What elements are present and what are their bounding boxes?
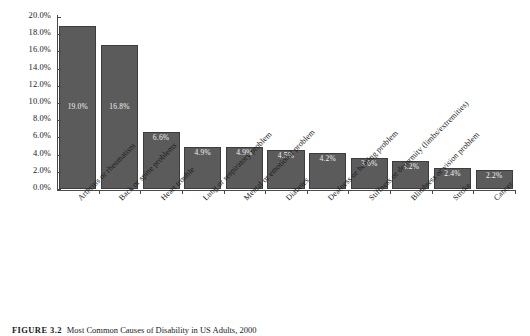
bar-value-label: 4.9% [185, 148, 220, 157]
y-axis-line [57, 15, 58, 191]
x-tick-mark [224, 190, 225, 194]
y-tick-label: 4.0% [33, 148, 51, 158]
figure-caption: FIGURE 3.2Most Common Causes of Disabili… [12, 325, 517, 336]
x-tick-mark [348, 190, 349, 194]
figure-caption-text: Most Common Causes of Disability in US A… [67, 325, 257, 335]
figure-number: FIGURE 3.2 [12, 325, 62, 335]
y-tick-label: 12.0% [29, 79, 51, 89]
x-tick-mark [432, 190, 433, 194]
x-tick-mark [140, 190, 141, 194]
y-tick-label: 20.0% [29, 10, 51, 20]
bar-slot: 4.2% [309, 17, 346, 189]
bar[interactable]: 19.0% [59, 26, 96, 189]
y-tick-label: 16.0% [29, 44, 51, 54]
figure-container: 19.0%16.8%6.6%4.9%4.9%4.5%4.2%3.6%3.2%2.… [0, 0, 530, 336]
x-tick-mark [515, 190, 516, 194]
x-tick-mark [265, 190, 266, 194]
x-tick-mark [307, 190, 308, 194]
y-tick-label: 14.0% [29, 62, 51, 72]
y-tick-label: 0.0% [33, 182, 51, 192]
y-tick-label: 6.0% [33, 130, 51, 140]
bar-value-label: 6.6% [144, 133, 179, 142]
bar-value-label: 4.2% [310, 154, 345, 163]
bar-slot: 4.9% [184, 17, 221, 189]
x-tick-mark [473, 190, 474, 194]
y-tick-label: 8.0% [33, 113, 51, 123]
y-tick-label: 2.0% [33, 165, 51, 175]
x-tick-mark [182, 190, 183, 194]
bar-slot: 2.2% [476, 17, 513, 189]
bar-value-label: 16.8% [102, 102, 137, 111]
bar-slot: 19.0% [59, 17, 96, 189]
bar-value-label: 2.2% [477, 171, 512, 180]
y-tick-label: 18.0% [29, 27, 51, 37]
bar-value-label: 19.0% [60, 102, 95, 111]
x-tick-mark [390, 190, 391, 194]
x-tick-mark [99, 190, 100, 194]
y-tick-label: 10.0% [29, 96, 51, 106]
